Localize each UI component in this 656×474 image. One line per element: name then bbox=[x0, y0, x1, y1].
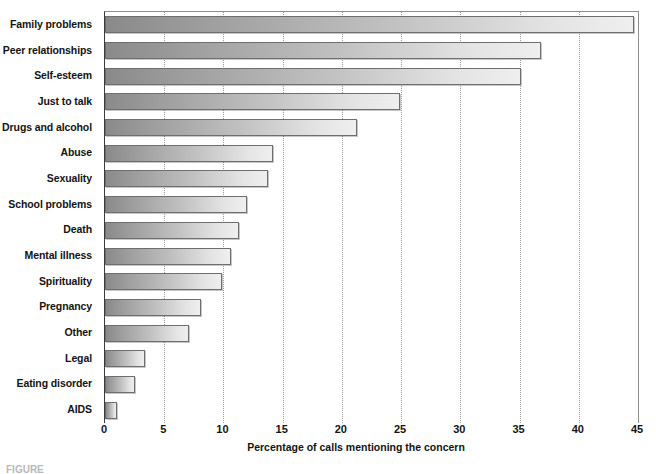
category-label: Other bbox=[0, 319, 98, 345]
x-tick-label: 40 bbox=[572, 423, 584, 435]
bar-row bbox=[105, 269, 638, 295]
bar bbox=[105, 376, 135, 393]
x-tick-label: 15 bbox=[276, 423, 288, 435]
bar bbox=[105, 402, 117, 419]
bar-row bbox=[105, 166, 638, 192]
x-tick-label: 45 bbox=[631, 423, 643, 435]
bar bbox=[105, 42, 541, 59]
category-label: Eating disorder bbox=[0, 371, 98, 397]
x-axis-tick-labels: 051015202530354045 bbox=[0, 423, 656, 441]
x-axis-title-text: Percentage of calls mentioning the conce… bbox=[247, 441, 465, 453]
x-tick-label: 10 bbox=[216, 423, 228, 435]
bar bbox=[105, 350, 145, 367]
x-tick-label: 35 bbox=[512, 423, 524, 435]
bar-row bbox=[105, 320, 638, 346]
bar bbox=[105, 325, 189, 342]
category-label: Legal bbox=[0, 345, 98, 371]
plot-area bbox=[104, 11, 639, 423]
bar-row bbox=[105, 89, 638, 115]
category-label: Peer relationships bbox=[0, 37, 98, 63]
bar bbox=[105, 93, 400, 110]
bar-row bbox=[105, 372, 638, 398]
bar bbox=[105, 222, 239, 239]
category-label: Just to talk bbox=[0, 88, 98, 114]
category-label: Abuse bbox=[0, 139, 98, 165]
category-axis-labels: Family problemsPeer relationshipsSelf-es… bbox=[0, 11, 98, 422]
bar-row bbox=[105, 140, 638, 166]
bar bbox=[105, 248, 231, 265]
x-tick-label: 25 bbox=[394, 423, 406, 435]
bar-row bbox=[105, 63, 638, 89]
figure-caption: FIGURE bbox=[6, 464, 406, 474]
category-label: Sexuality bbox=[0, 165, 98, 191]
category-label: School problems bbox=[0, 191, 98, 217]
bar bbox=[105, 273, 222, 290]
bar bbox=[105, 196, 247, 213]
bar bbox=[105, 68, 521, 85]
x-tick-label: 0 bbox=[101, 423, 107, 435]
bar-row bbox=[105, 397, 638, 423]
bar-row bbox=[105, 38, 638, 64]
bar-row bbox=[105, 243, 638, 269]
x-tick-label: 30 bbox=[453, 423, 465, 435]
category-label: Drugs and alcohol bbox=[0, 114, 98, 140]
bar-row bbox=[105, 12, 638, 38]
bar bbox=[105, 145, 273, 162]
category-label: AIDS bbox=[0, 396, 98, 422]
bar bbox=[105, 299, 201, 316]
x-tick-label: 20 bbox=[335, 423, 347, 435]
plot-inner bbox=[105, 12, 638, 423]
bar-row bbox=[105, 192, 638, 218]
x-axis-title: Percentage of calls mentioning the conce… bbox=[0, 441, 656, 453]
bars-layer bbox=[105, 12, 638, 423]
bar bbox=[105, 119, 357, 136]
category-label: Mental illness bbox=[0, 242, 98, 268]
bar-row bbox=[105, 115, 638, 141]
category-label: Death bbox=[0, 217, 98, 243]
bar-row bbox=[105, 295, 638, 321]
bar-chart: Family problemsPeer relationshipsSelf-es… bbox=[0, 0, 656, 474]
bar bbox=[105, 16, 634, 33]
x-tick-label: 5 bbox=[160, 423, 166, 435]
category-label: Pregnancy bbox=[0, 294, 98, 320]
bar-row bbox=[105, 346, 638, 372]
bar bbox=[105, 170, 268, 187]
category-label: Family problems bbox=[0, 11, 98, 37]
category-label: Self-esteem bbox=[0, 62, 98, 88]
category-label: Spirituality bbox=[0, 268, 98, 294]
bar-row bbox=[105, 218, 638, 244]
